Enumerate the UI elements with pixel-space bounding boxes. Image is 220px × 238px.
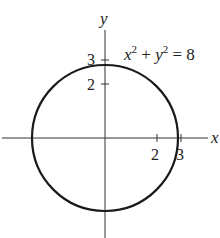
y-axis-label: y bbox=[98, 9, 108, 28]
x-tick-label-3: 3 bbox=[176, 146, 184, 163]
equation-label: x2 + y2 = 8 bbox=[123, 43, 195, 64]
x-axis-label: x bbox=[210, 128, 219, 147]
x-tick-label-2: 2 bbox=[151, 146, 159, 163]
y-tick-label-3: 3 bbox=[87, 51, 95, 68]
circle-graph: y x 3 2 2 3 x2 + y2 = 8 bbox=[0, 0, 220, 238]
y-tick-label-2: 2 bbox=[87, 76, 95, 93]
